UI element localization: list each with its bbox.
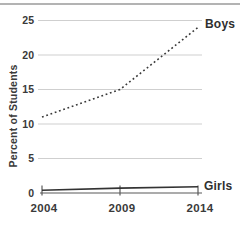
series-line-boys <box>42 27 198 117</box>
x-tick-label: 2014 <box>187 202 214 214</box>
y-tick-label: 5 <box>28 152 34 164</box>
y-tick-label: 0 <box>28 187 34 199</box>
series-label-boys: Boys <box>205 17 235 31</box>
y-tick-label: 20 <box>22 49 34 61</box>
x-tick-label: 2004 <box>31 202 58 214</box>
series-label-girls: Girls <box>204 179 232 193</box>
chart-panel: Percent of Students 05101520252004200920… <box>0 0 240 226</box>
y-tick-label: 10 <box>22 118 34 130</box>
x-tick-label: 2009 <box>109 202 136 214</box>
y-tick-label: 15 <box>22 83 34 95</box>
y-tick-label: 25 <box>22 14 34 26</box>
